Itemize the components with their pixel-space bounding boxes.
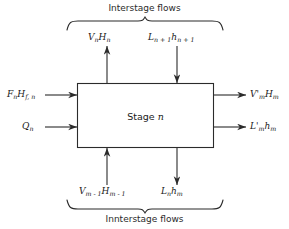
stage-label-prefix: Stage	[127, 111, 154, 122]
stage-box-label: Stage n	[77, 111, 214, 122]
caption-top-text: Interstage flows	[108, 3, 180, 13]
label-bottom-left-in-main1: V	[79, 186, 86, 196]
label-bottom-left-in-sub1: m - 1	[86, 190, 102, 197]
label-right-out-lower-sub1: m	[258, 125, 264, 132]
label-right-out-upper: V'mHm	[250, 90, 279, 99]
label-right-out-upper-main2: H	[265, 89, 273, 99]
label-top-right-in-sub1: n + 1	[154, 36, 171, 43]
caption-bottom: Innterstage flows	[0, 215, 289, 224]
label-bottom-left-in: Vm - 1Hm - 1	[79, 187, 126, 196]
label-right-out-lower-sub2: m	[270, 125, 276, 132]
label-left-in-upper: FnHf, n	[7, 90, 35, 99]
label-bottom-right-out-main2: h	[171, 186, 177, 196]
label-top-left-out-main1: V	[88, 32, 95, 42]
label-top-left-out: VnHn	[88, 33, 110, 42]
caption-bottom-text: Innterstage flows	[106, 214, 184, 224]
label-bottom-right-out: Lnhm	[161, 187, 183, 196]
label-left-in-lower: Qn	[22, 122, 33, 131]
label-right-out-upper-sub1: m	[259, 93, 265, 100]
label-bottom-left-in-sub2: m - 1	[109, 190, 125, 197]
label-bottom-right-out-sub1: n	[167, 190, 171, 197]
label-left-in-upper-sub2: f, n	[25, 93, 35, 100]
label-top-left-out-sub1: n	[95, 36, 99, 43]
stage-flow-diagram: Interstage flows Innterstage flows Stage…	[0, 0, 289, 229]
top-brace	[67, 17, 223, 30]
stage-label-subject: n	[158, 111, 164, 122]
caption-top: Interstage flows	[0, 4, 289, 13]
bottom-brace	[67, 200, 223, 213]
label-top-left-out-sub2: n	[106, 36, 110, 43]
label-top-right-in-sub2: n + 1	[177, 36, 194, 43]
label-bottom-right-out-sub2: m	[177, 190, 183, 197]
label-left-in-lower-sub1: n	[29, 125, 33, 132]
label-right-out-lower: L'mhm	[250, 122, 276, 131]
label-left-in-upper-sub1: n	[13, 93, 17, 100]
label-right-out-upper-sub2: m	[273, 93, 279, 100]
label-left-in-upper-main2: H	[17, 89, 25, 99]
label-top-right-in: Ln + 1hn + 1	[148, 33, 194, 42]
